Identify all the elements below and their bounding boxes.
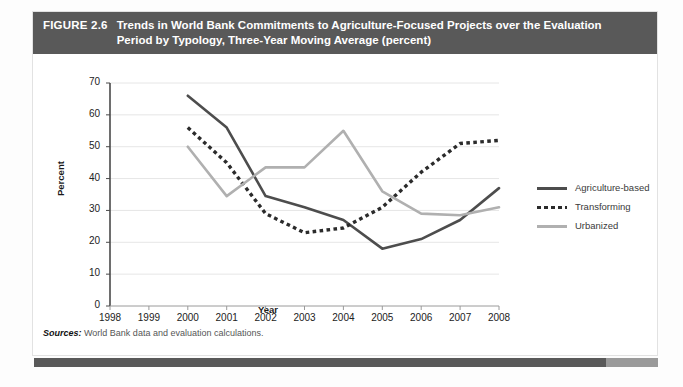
legend-label-urbanized: Urbanized <box>575 220 618 231</box>
legend-swatch-solid-dark-icon <box>537 183 567 193</box>
figure-number: FIGURE 2.6 <box>43 18 108 31</box>
legend-swatch-solid-gray-icon <box>537 221 567 231</box>
legend-item-urbanized: Urbanized <box>537 216 649 235</box>
legend-label-agriculture-based: Agriculture-based <box>575 182 649 193</box>
bottom-accent-bar-tail <box>606 358 658 367</box>
chart-legend: Agriculture-based Transforming Urbanized <box>537 178 649 235</box>
sources-label: Sources: <box>43 328 82 338</box>
legend-item-agriculture-based: Agriculture-based <box>537 178 649 197</box>
legend-swatch-dotted-icon <box>537 202 567 212</box>
figure-title: Trends in World Bank Commitments to Agri… <box>117 18 637 48</box>
sources-note: Sources: World Bank data and evaluation … <box>43 328 263 338</box>
legend-item-transforming: Transforming <box>537 197 649 216</box>
legend-label-transforming: Transforming <box>575 201 631 212</box>
figure-page: FIGURE 2.6 Trends in World Bank Commitme… <box>0 0 683 387</box>
figure-container: FIGURE 2.6 Trends in World Bank Commitme… <box>32 11 658 356</box>
bottom-accent-bar <box>34 358 658 367</box>
figure-header-bar: FIGURE 2.6 Trends in World Bank Commitme… <box>33 12 657 54</box>
sources-text: World Bank data and evaluation calculati… <box>82 328 264 338</box>
chart-area: Percent Year 010203040506070 19981999200… <box>33 54 659 316</box>
